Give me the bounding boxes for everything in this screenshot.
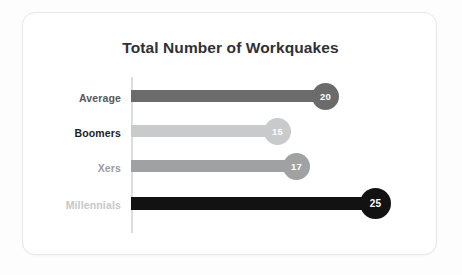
bar-value-xers: 17 [291,161,302,172]
bar-category-label-average: Average [0,92,121,104]
bar-chart-plot: Average 20 Boomers 15 [23,13,438,256]
screenshot-root: Total Number of Workquakes Average 20 Bo… [0,0,462,275]
bar-row-millennials: Millennials 25 [23,193,438,227]
bar-fill-millennials[interactable] [131,197,376,210]
bar-row-xers: Xers 17 [23,157,438,191]
bar-value-bubble-millennials: 25 [360,188,391,219]
bar-category-label-xers: Xers [0,162,121,174]
bar-value-millennials: 25 [370,198,382,209]
bar-row-average: Average 20 [23,87,438,121]
bar-value-bubble-average: 20 [312,83,339,110]
bar-fill-xers[interactable] [131,160,298,172]
bar-value-bubble-boomers: 15 [264,118,291,145]
bar-row-boomers: Boomers 15 [23,122,438,156]
bar-value-bubble-xers: 17 [283,153,310,180]
chart-card: Total Number of Workquakes Average 20 Bo… [22,12,437,255]
bar-fill-boomers[interactable] [131,125,279,137]
bar-category-label-boomers: Boomers [0,127,121,139]
bar-fill-average[interactable] [131,90,327,102]
bar-value-average: 20 [320,91,331,102]
bar-value-boomers: 15 [272,126,283,137]
bar-category-label-millennials: Millennials [0,199,121,211]
